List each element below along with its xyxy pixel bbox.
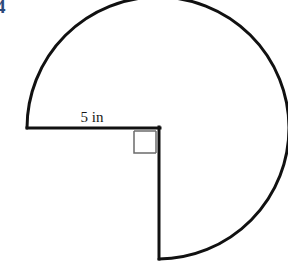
problem-number: 4: [0, 0, 6, 16]
figure-page: 5 in 4: [0, 0, 288, 267]
geometry-figure: 5 in: [0, 0, 288, 267]
right-angle-marker: [134, 131, 156, 153]
radius-dimension-label: 5 in: [81, 109, 104, 125]
